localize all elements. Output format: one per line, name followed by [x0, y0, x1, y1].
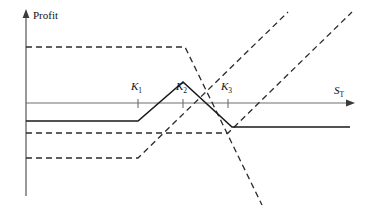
strike-label-k3-sub: 3 [228, 86, 232, 95]
x-axis-label-sub: T [340, 90, 345, 99]
strike-label-k2: K2 [176, 80, 187, 95]
long-call-high-strike-line [26, 12, 352, 133]
butterfly-total-profit-line [26, 82, 350, 127]
strike-label-k2-sub: 2 [183, 86, 187, 95]
y-axis-label: Profit [33, 9, 58, 21]
butterfly-spread-payoff-diagram: Profit ST K1 K2 K3 [0, 0, 365, 218]
axes-group [23, 9, 355, 196]
x-axis-arrowhead [346, 100, 355, 107]
long-call-low-strike-line [26, 12, 288, 158]
strike-label-k3: K3 [221, 80, 232, 95]
chart-canvas [0, 0, 365, 218]
x-axis-label: ST [334, 84, 344, 99]
strike-label-k1-sub: 1 [138, 86, 142, 95]
y-axis-arrowhead [23, 9, 30, 18]
strike-label-k1: K1 [131, 80, 142, 95]
dashed-component-lines [26, 12, 352, 205]
short-calls-middle-strike-line [26, 47, 262, 205]
